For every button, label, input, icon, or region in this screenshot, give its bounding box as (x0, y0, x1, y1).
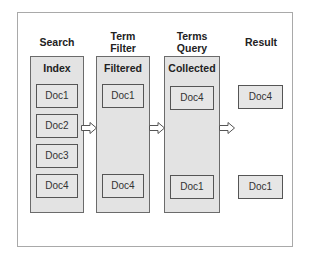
column-label: Collected (165, 62, 219, 74)
doc-box: Doc1 (170, 175, 214, 199)
doc-box: Doc1 (102, 84, 144, 108)
result-doc-box: Doc4 (238, 85, 283, 109)
stage-title-result: Result (226, 36, 296, 48)
doc-box: Doc2 (36, 114, 78, 138)
stage-title-term-filter: Term Filter (88, 30, 158, 54)
arrow-right-icon (149, 122, 165, 134)
stage-title-terms-query: Terms Query (157, 30, 227, 54)
collected-column: Collected Doc4 Doc1 (164, 56, 220, 213)
stage-title-line: Filter (88, 42, 158, 54)
column-label: Index (31, 62, 83, 74)
doc-box: Doc4 (102, 174, 144, 198)
arrow-right-icon (81, 122, 97, 134)
doc-box: Doc4 (170, 86, 214, 110)
doc-box: Doc4 (36, 174, 78, 198)
stage-title-line: Query (157, 42, 227, 54)
filtered-column: Filtered Doc1 Doc4 (96, 56, 150, 213)
stage-title-line: Terms (157, 30, 227, 42)
doc-box: Doc3 (36, 144, 78, 168)
index-column: Index Doc1 Doc2 Doc3 Doc4 (30, 56, 84, 213)
stage-title-line: Term (88, 30, 158, 42)
result-doc-box: Doc1 (238, 175, 283, 199)
column-label: Filtered (97, 62, 149, 74)
doc-box: Doc1 (36, 84, 78, 108)
stage-title-search: Search (22, 36, 92, 48)
arrow-right-icon (219, 122, 235, 134)
